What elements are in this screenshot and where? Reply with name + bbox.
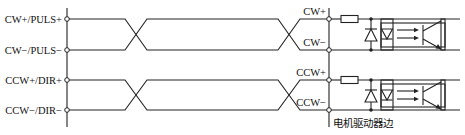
cw-input-circuit: [331, 16, 460, 52]
protection-diode-icon: [365, 78, 377, 112]
optocoupler-led-icon: [381, 19, 393, 50]
motor-driver-side-label: 电机驱动器边: [333, 117, 394, 129]
protection-diode-icon: [365, 17, 377, 52]
optocoupler-package: [381, 23, 445, 47]
light-arrows-icon: [397, 28, 419, 40]
right-terminal-label-cw-minus: CW−: [303, 37, 326, 48]
right-terminal-ccw-plus: [327, 78, 332, 83]
wiring-diagram: CW+/PULS+ CW−/PULS− CCW+/DIR+ CCW−/DIR− …: [0, 0, 465, 135]
left-terminal-ccw-minus: [65, 108, 70, 113]
left-terminal-label-cw-plus: CW+/PULS+: [5, 14, 62, 25]
left-terminal-label-ccw-minus: CCW−/DIR−: [5, 105, 62, 116]
right-terminal-cw-plus: [327, 17, 332, 22]
left-terminal-label-cw-minus: CW−/PULS−: [5, 45, 62, 56]
twisted-pair-ccw: [67, 80, 329, 110]
left-terminal-ccw-plus: [65, 78, 70, 83]
light-arrows-icon: [397, 89, 419, 101]
right-terminal-ccw-minus: [327, 108, 332, 113]
right-terminal-label-ccw-minus: CCW−: [296, 97, 326, 108]
ccw-input-circuit: [331, 77, 460, 112]
left-terminal-cw-minus: [65, 48, 70, 53]
twisted-pair-cw: [67, 19, 329, 50]
optocoupler-package: [381, 84, 445, 107]
left-terminal-label-ccw-plus: CCW+/DIR+: [5, 75, 62, 86]
right-terminal-label-ccw-plus: CCW+: [296, 67, 326, 78]
right-terminal-cw-minus: [327, 48, 332, 53]
phototransistor-icon: [423, 19, 445, 50]
resistor-icon: [341, 77, 358, 84]
left-terminal-cw-plus: [65, 17, 70, 22]
resistor-icon: [341, 16, 358, 23]
right-terminal-label-cw-plus: CW+: [303, 6, 326, 17]
